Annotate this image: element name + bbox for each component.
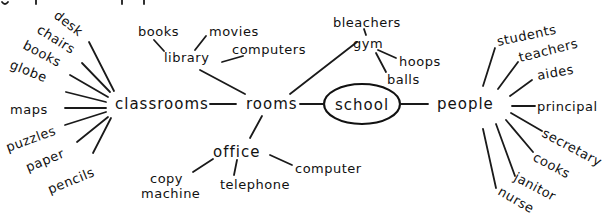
item-copy: copy	[150, 171, 183, 186]
mind-map-diagram: school rooms classrooms desk chairs book…	[0, 0, 612, 220]
item-balls: balls	[387, 72, 420, 87]
link-rooms-office	[250, 116, 262, 138]
item-cooks: cooks	[531, 149, 573, 181]
item-aides: aides	[536, 62, 575, 83]
link-office-computer	[270, 155, 292, 165]
link-books-library	[154, 40, 164, 51]
item-paper: paper	[24, 146, 67, 175]
item-machine: machine	[141, 186, 200, 201]
classrooms-spokes	[65, 42, 114, 153]
item-maps: maps	[10, 102, 48, 117]
node-gym: gym	[353, 36, 383, 51]
node-classrooms: classrooms	[115, 95, 209, 113]
item-bleachers: bleachers	[333, 15, 401, 30]
link-gym-balls	[376, 53, 386, 72]
people-spokes	[483, 48, 542, 188]
center-node-school: school	[335, 96, 389, 114]
item-books-library: books	[138, 24, 179, 39]
cropped-text-descenders	[2, 0, 144, 4]
item-pencils: pencils	[46, 164, 97, 196]
link-office-telephone	[234, 160, 237, 175]
node-people: people	[437, 95, 494, 113]
link-gym-hoops	[378, 50, 396, 58]
node-library: library	[164, 50, 209, 65]
link-movies-library	[195, 36, 206, 50]
item-telephone: telephone	[220, 177, 290, 192]
item-computers: computers	[232, 42, 306, 57]
link-office-copy-machine	[193, 159, 213, 172]
item-movies: movies	[209, 24, 259, 39]
link-library-rooms	[200, 70, 245, 94]
item-computer-office: computer	[295, 161, 362, 176]
item-hoops: hoops	[399, 54, 441, 69]
node-rooms: rooms	[246, 95, 298, 113]
item-principal: principal	[537, 99, 598, 114]
node-office: office	[213, 143, 260, 161]
